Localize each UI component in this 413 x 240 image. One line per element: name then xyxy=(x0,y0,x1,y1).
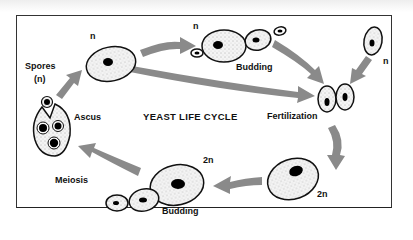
diagram-title: YEAST LIFE CYCLE xyxy=(143,111,238,122)
label-budding-top: Budding xyxy=(236,62,273,72)
label-diploid-right: 2n xyxy=(317,189,328,199)
ascus xyxy=(34,97,71,157)
label-spores-ploidy: (n) xyxy=(34,74,46,84)
arrow-budding-to-fertilization xyxy=(272,40,324,84)
haploid-cell-top xyxy=(83,42,139,86)
haploid-cell-right xyxy=(362,26,385,57)
arrow-meiosis xyxy=(78,143,141,176)
label-diploid-bottom: 2n xyxy=(203,155,214,165)
label-fertilization: Fertilization xyxy=(267,111,318,121)
label-haploid-budding-top: n xyxy=(193,21,199,31)
arrow-haploid-to-budding xyxy=(140,37,196,57)
label-ascus: Ascus xyxy=(74,112,101,122)
arrow-diploid-to-budding xyxy=(213,176,262,194)
diploid-cell-right xyxy=(262,151,325,206)
arrow-spores-to-haploid xyxy=(56,70,82,99)
label-budding-bottom: Budding xyxy=(162,206,199,216)
label-haploid-right: n xyxy=(383,56,389,66)
arrow-fertilization-to-diploid xyxy=(327,125,345,170)
arrow-haploid-right-to-fertilization xyxy=(350,56,372,84)
label-spores: Spores xyxy=(25,61,56,71)
label-meiosis: Meiosis xyxy=(55,175,88,185)
fertilization-cells xyxy=(318,84,354,112)
budding-cells-top xyxy=(191,26,287,62)
arrow-haploid-to-fertilization xyxy=(130,66,315,103)
label-haploid-top: n xyxy=(90,31,96,41)
